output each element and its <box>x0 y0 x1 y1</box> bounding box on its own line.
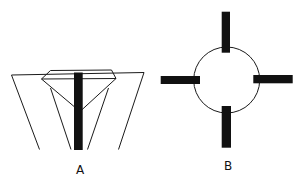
panel-a-label: A <box>76 164 84 176</box>
panel-b-circle <box>194 47 260 113</box>
panel-b-top-bar <box>222 12 230 53</box>
panel-b-left-bar <box>161 76 200 84</box>
figure: A B <box>0 0 300 181</box>
setting-outer-right-line <box>119 73 145 150</box>
diagram-canvas <box>0 0 300 181</box>
prong-inner-right-line <box>88 88 109 150</box>
prong-inner-left-line <box>51 88 72 150</box>
panel-b-right-bar <box>253 75 292 83</box>
panel-b-label: B <box>224 160 232 172</box>
setting-outer-left-line <box>12 75 40 150</box>
panel-a-vertical-bar <box>74 73 83 151</box>
panel-b-bottom-bar <box>222 106 231 148</box>
